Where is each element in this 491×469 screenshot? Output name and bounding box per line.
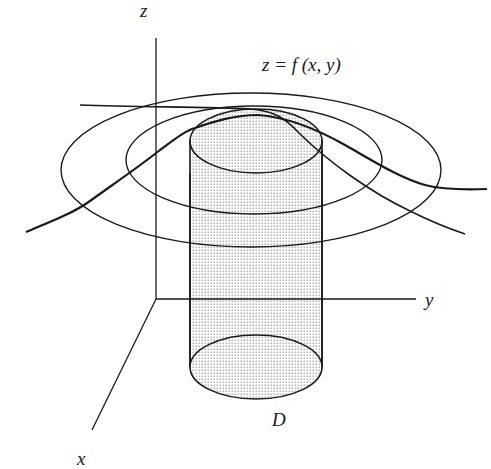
cylinder-over-D	[190, 107, 322, 399]
x-axis-label: x	[77, 449, 85, 468]
y-axis-label: y	[425, 290, 433, 309]
surface-equation-label: z = f (x, y)	[262, 55, 341, 74]
region-D-label: D	[272, 410, 286, 429]
z-axis-label: z	[140, 1, 147, 20]
x-axis	[92, 299, 156, 430]
